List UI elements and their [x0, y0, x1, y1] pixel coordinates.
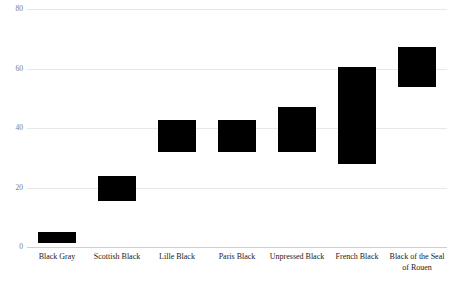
bar: [398, 47, 435, 87]
bar-chart: 80 60 40 20 0 Black Gray Scottish Black …: [0, 0, 450, 300]
x-label-black-of-the-seal-of-rouen: Black of the Seal of Rouen: [387, 252, 447, 298]
y-tick-label: 0: [2, 243, 23, 251]
bar: [38, 232, 75, 243]
y-tick-label: 80: [2, 5, 23, 13]
x-label-french-black: French Black: [327, 252, 387, 298]
figure-caption: [30, 288, 290, 298]
y-tick-label: 20: [2, 184, 23, 192]
y-tick-label: 60: [2, 65, 23, 73]
y-tick-label: 40: [2, 124, 23, 132]
bar: [158, 120, 195, 152]
bar: [278, 107, 315, 152]
bar: [98, 176, 135, 201]
bars-layer: [27, 9, 447, 247]
bar: [338, 67, 375, 164]
bar: [218, 120, 255, 152]
